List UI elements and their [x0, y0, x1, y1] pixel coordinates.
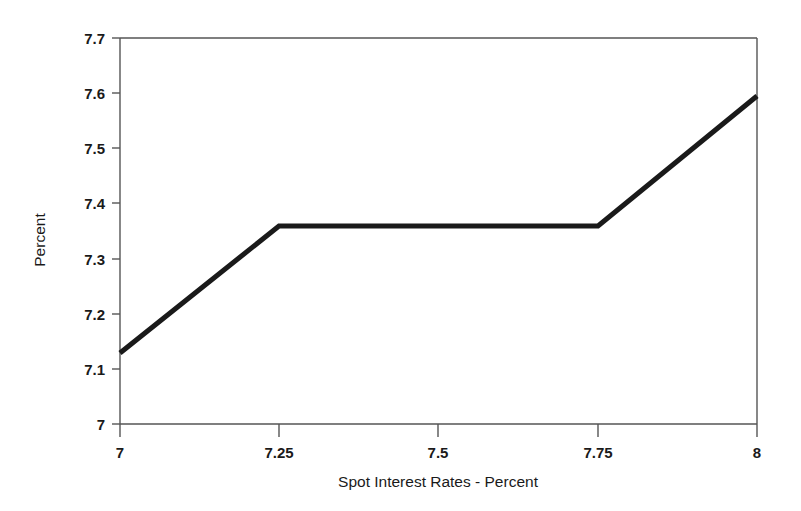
y-tick-label: 7.2 — [84, 306, 105, 323]
y-axis-ticks — [112, 38, 120, 424]
y-tick-label: 7.6 — [84, 85, 105, 102]
x-axis-tick-labels: 7 7.25 7.5 7.75 8 — [116, 444, 761, 461]
y-tick-label: 7.3 — [84, 251, 105, 268]
y-tick-label: 7.1 — [84, 361, 105, 378]
x-axis-ticks — [120, 424, 757, 437]
y-axis-tick-labels: 7.7 7.6 7.5 7.4 7.3 7.2 7.1 7 — [84, 30, 106, 433]
y-tick-label: 7.7 — [84, 30, 105, 47]
y-axis-title: Percent — [31, 213, 48, 267]
y-tick-label: 7 — [97, 416, 105, 433]
y-tick-label: 7.4 — [84, 195, 106, 212]
x-tick-label: 7.75 — [583, 444, 612, 461]
plot-area-background — [120, 38, 757, 424]
y-tick-label: 7.5 — [84, 140, 105, 157]
x-tick-label: 7 — [116, 444, 124, 461]
line-chart: 7.7 7.6 7.5 7.4 7.3 7.2 7.1 7 7 7.25 7.5… — [0, 0, 801, 511]
x-tick-label: 8 — [753, 444, 761, 461]
chart-container: 7.7 7.6 7.5 7.4 7.3 7.2 7.1 7 7 7.25 7.5… — [0, 0, 801, 511]
x-axis-title: Spot Interest Rates - Percent — [338, 473, 539, 490]
x-tick-label: 7.25 — [264, 444, 293, 461]
x-tick-label: 7.5 — [428, 444, 449, 461]
